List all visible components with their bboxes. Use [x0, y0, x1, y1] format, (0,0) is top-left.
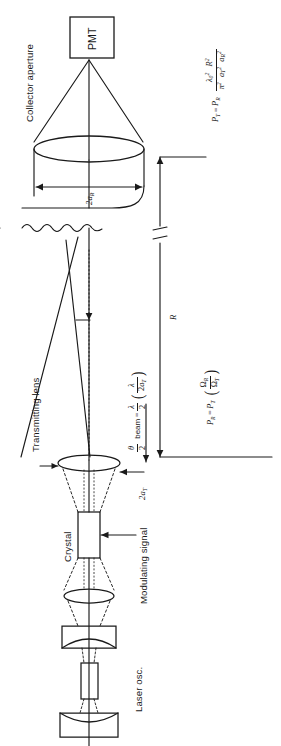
dim-arrowhead-2aR-right — [135, 184, 142, 191]
collector-cone-left — [34, 60, 89, 142]
crystal-box — [78, 512, 100, 558]
dashed-ray-cavity-b — [94, 648, 96, 663]
dim-break-slash-2 — [153, 236, 167, 239]
label-modulating-signal: Modulating signal — [138, 528, 149, 604]
dashed-ray-lens-crystal-left — [63, 469, 78, 512]
beam-envelope-right-solid — [66, 240, 90, 457]
label-crystal: Crystal — [62, 531, 73, 562]
dashed-ray-cavity-c — [80, 699, 84, 713]
figure-canvas: Collector aperture PMT 2aR R Transmittin… — [0, 0, 281, 746]
dim-break-slash-1 — [153, 227, 167, 230]
label-aperture-diameter-tx: 2aT — [137, 488, 148, 500]
dashed-ray-lens-mirror-right — [100, 601, 110, 626]
dashed-ray-lens-crystal-right — [100, 469, 115, 512]
collector-cone-right — [89, 60, 143, 142]
dashed-ray-cavity-a — [82, 648, 84, 663]
dashed-ray-cavity-d — [94, 699, 98, 713]
dim-arrowhead-R-top — [157, 157, 164, 164]
dim-arrowhead-R-bottom — [157, 450, 164, 457]
dashed-ray-crystal-lens-right — [100, 558, 114, 590]
dim-arrowhead-2aR-left — [36, 184, 43, 191]
dim-arrowhead-theta-bottom — [143, 455, 149, 462]
label-laser-osc: Laser osc. — [133, 667, 144, 712]
dashed-ray-lens-mirror-left — [68, 601, 78, 626]
callout-arrow-transmitting-lens — [52, 463, 59, 469]
label-aperture-diameter-rx: 2aR — [84, 193, 95, 205]
dim-arrowhead-2aT — [120, 469, 127, 475]
break-squiggle — [22, 225, 102, 232]
label-transmitting-lens: Transmitting lens — [30, 378, 41, 452]
aperture-skirt-curve — [22, 186, 144, 208]
equation-transmit-power: PT = PR λ02 R2 π2 aT2 aR2 — [205, 49, 227, 122]
dashed-ray-crystal-lens-left — [64, 558, 78, 590]
equation-received-power: PR = PT ( ΩR ΩT ) — [200, 370, 221, 425]
equation-beam-divergence: θ 2 beam = λ 2 ( λ 2aT ) — [128, 372, 148, 452]
label-pmt: PMT — [86, 28, 98, 50]
modulating-signal-arrowhead — [101, 532, 109, 539]
label-range-R: R — [168, 315, 178, 320]
label-collector-aperture: Collector aperture — [24, 44, 35, 122]
